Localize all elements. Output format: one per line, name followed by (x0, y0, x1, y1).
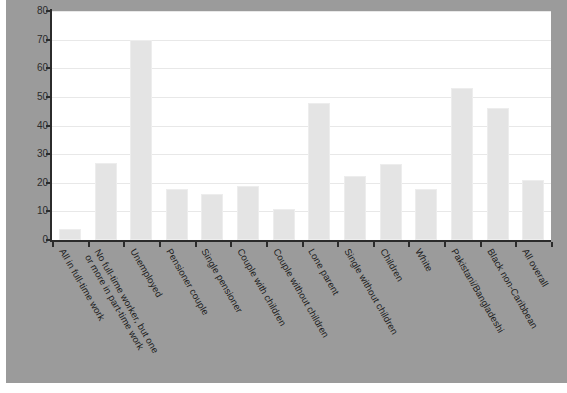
x-axis-category-label: Lone parent (306, 247, 341, 297)
bar[interactable] (273, 209, 295, 241)
bar[interactable] (130, 40, 152, 240)
x-axis-category-label: All overall (520, 247, 550, 289)
bar-chart-figure: 01020304050607080 All in full-time workN… (0, 0, 567, 393)
bar[interactable] (487, 108, 509, 240)
bar[interactable] (415, 189, 437, 241)
bar[interactable] (166, 189, 188, 241)
bar[interactable] (522, 180, 544, 240)
y-axis-tick-label: 80 (14, 6, 48, 16)
y-axis-tick-mark (46, 96, 51, 98)
category-label-line: All overall (520, 247, 550, 289)
x-axis-tick-mark (551, 242, 553, 247)
y-axis-tick-mark (46, 210, 51, 212)
y-axis-tick-mark (46, 39, 51, 41)
category-label-line: Lone parent (306, 247, 341, 297)
y-axis-tick-mark (46, 182, 51, 184)
y-axis-tick-label: 70 (14, 35, 48, 45)
y-axis-tick-mark (46, 67, 51, 69)
y-axis-tick-label: 50 (14, 92, 48, 102)
y-axis-tick-mark (46, 10, 51, 12)
x-axis-category-label: White (413, 247, 434, 274)
bar[interactable] (201, 194, 223, 240)
category-label-line: Children (378, 247, 405, 284)
y-axis-tick-label: 30 (14, 149, 48, 159)
bar[interactable] (59, 229, 81, 241)
category-label-line: No full-time worker, but one (92, 247, 161, 355)
bars-layer (52, 11, 551, 240)
category-label-line: Unemployed (128, 247, 164, 299)
category-label-line: White (413, 247, 434, 274)
y-axis-tick-label: 0 (14, 235, 48, 245)
bar[interactable] (344, 176, 366, 240)
bar[interactable] (451, 88, 473, 240)
x-axis-category-label: Children (378, 247, 405, 284)
x-axis-category-label: Unemployed (128, 247, 164, 299)
y-axis-tick-label: 10 (14, 206, 48, 216)
bar[interactable] (380, 164, 402, 240)
bar[interactable] (308, 103, 330, 240)
bar[interactable] (237, 186, 259, 240)
chart-panel: 01020304050607080 All in full-time workN… (6, 0, 567, 383)
y-axis-tick-label: 40 (14, 121, 48, 131)
y-axis-tick-label: 20 (14, 178, 48, 188)
x-axis-category-labels: All in full-time workNo full-time worker… (52, 247, 551, 383)
y-axis-tick-labels: 01020304050607080 (10, 0, 48, 260)
y-axis-tick-mark (46, 239, 51, 241)
y-axis-tick-label: 60 (14, 63, 48, 73)
bar[interactable] (95, 163, 117, 240)
y-axis-tick-mark (46, 125, 51, 127)
y-axis-tick-mark (46, 153, 51, 155)
